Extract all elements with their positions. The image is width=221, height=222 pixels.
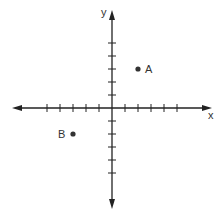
y-axis [108, 10, 116, 209]
x-axis-label: x [208, 109, 214, 121]
point-b-label: B [58, 128, 65, 140]
x-axis-left-arrow-icon [12, 105, 22, 111]
y-axis-label: y [101, 6, 107, 18]
y-axis-down-arrow-icon [109, 199, 115, 209]
point-a-label: A [145, 63, 153, 75]
point-a-marker [135, 66, 140, 71]
point-b-marker [70, 131, 75, 136]
point-a: A [135, 63, 153, 75]
coordinate-plane: x y A B [0, 0, 221, 222]
y-axis-up-arrow-icon [109, 10, 115, 20]
point-b: B [58, 128, 76, 140]
